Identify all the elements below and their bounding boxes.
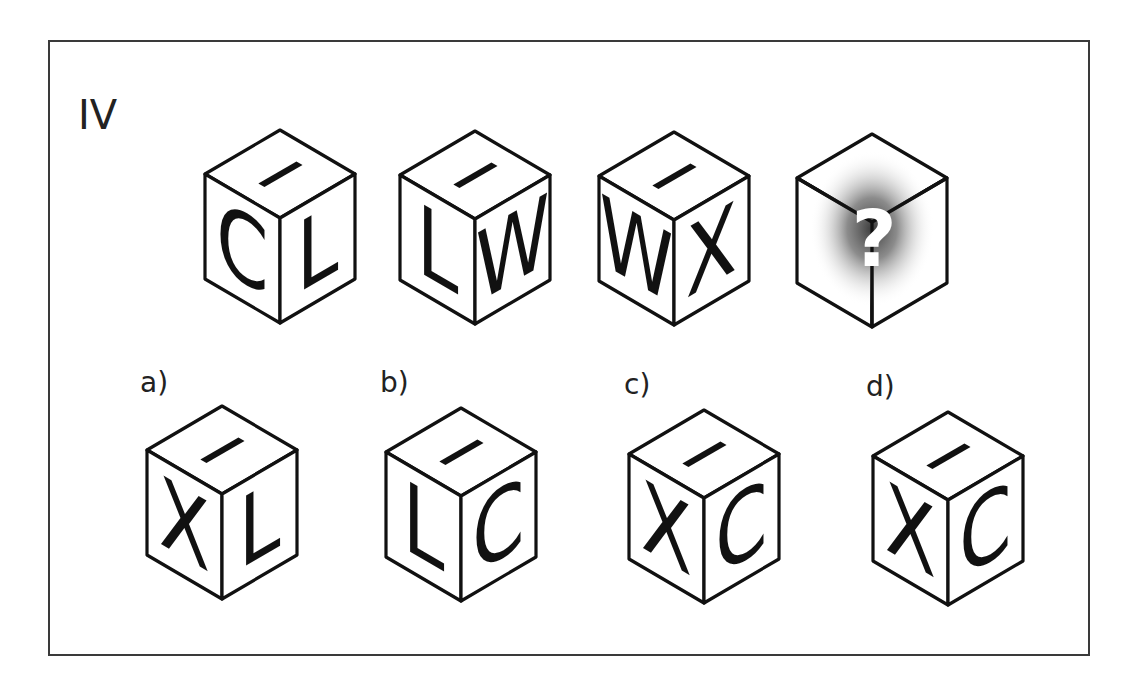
sequence-cube-unknown: ?	[797, 134, 947, 327]
svg-text:L: L	[297, 180, 339, 317]
svg-text:L: L	[239, 456, 281, 593]
left-face-letter: L	[417, 181, 459, 318]
left-face-letter: L	[403, 458, 445, 595]
cube-scene: CLLWWX?XLLCXCXC	[0, 0, 1140, 697]
right-face-letter: L	[297, 180, 339, 317]
right-face-letter: L	[239, 456, 281, 593]
option-b-cube[interactable]: LC	[386, 408, 536, 601]
option-c-cube[interactable]: XC	[629, 410, 779, 603]
sequence-cube-3: WX	[599, 132, 749, 328]
question-mark-icon: ?	[851, 194, 896, 284]
option-d-cube[interactable]: XC	[873, 412, 1023, 605]
option-a-cube[interactable]: XL	[147, 406, 297, 599]
svg-text:L: L	[403, 458, 445, 595]
sequence-cube-1: CL	[205, 130, 355, 323]
svg-text:L: L	[417, 181, 459, 318]
sequence-cube-2: LW	[400, 131, 550, 327]
